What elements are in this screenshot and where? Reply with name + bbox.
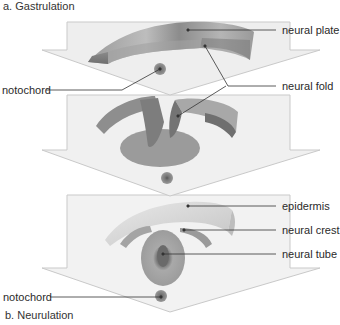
label-notochord-top: notochord <box>2 84 51 96</box>
label-neural-crest: neural crest <box>282 224 339 236</box>
neurulation-diagram <box>0 0 340 325</box>
label-epidermis: epidermis <box>282 200 330 212</box>
label-neural-plate: neural plate <box>282 24 340 36</box>
caption-gastrulation: a. Gastrulation <box>3 0 75 12</box>
label-neural-tube: neural tube <box>282 248 337 260</box>
label-neural-fold: neural fold <box>282 80 333 92</box>
label-notochord-bottom: notochord <box>3 291 52 303</box>
caption-neurulation: b. Neurulation <box>5 309 74 321</box>
